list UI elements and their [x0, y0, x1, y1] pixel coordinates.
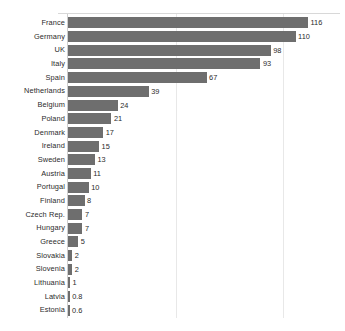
- category-label: Belgium: [38, 98, 65, 112]
- bar[interactable]: [68, 182, 89, 193]
- bar-chart: France116Germany110UK98Italy93Spain67Net…: [0, 0, 345, 331]
- bar-container: 93: [68, 58, 271, 69]
- category-label: Portugal: [37, 180, 65, 194]
- bar-row[interactable]: Czech Rep.7: [0, 208, 345, 222]
- bar[interactable]: [68, 31, 296, 42]
- bar-row[interactable]: Italy93: [0, 57, 345, 71]
- bar-value-label: 110: [296, 31, 310, 42]
- bar-row[interactable]: Belgium24: [0, 98, 345, 112]
- category-label: Austria: [41, 167, 65, 181]
- bar-container: 2: [68, 250, 79, 261]
- bar-row[interactable]: Netherlands39: [0, 84, 345, 98]
- bar-row[interactable]: Poland21: [0, 112, 345, 126]
- bar-row[interactable]: Ireland15: [0, 139, 345, 153]
- bar-value-label: 0.6: [70, 305, 83, 316]
- bar-row[interactable]: Hungary7: [0, 221, 345, 235]
- bar-value-label: 67: [207, 72, 218, 83]
- bar-row[interactable]: Sweden13: [0, 153, 345, 167]
- bar-row[interactable]: Spain67: [0, 71, 345, 85]
- bar-container: 21: [68, 113, 122, 124]
- category-label: Czech Rep.: [25, 208, 65, 222]
- bar[interactable]: [68, 154, 95, 165]
- bar-row[interactable]: UK98: [0, 43, 345, 57]
- bar-value-label: 5: [78, 236, 85, 247]
- bar-container: 7: [68, 209, 89, 220]
- plot-area: France116Germany110UK98Italy93Spain67Net…: [0, 0, 345, 331]
- bar[interactable]: [68, 127, 103, 138]
- bar-row[interactable]: Denmark17: [0, 126, 345, 140]
- bar-row[interactable]: Austria11: [0, 167, 345, 181]
- category-label: Latvia: [45, 290, 65, 304]
- bar-container: 8: [68, 195, 91, 206]
- category-label: Slovenia: [36, 262, 65, 276]
- bar-value-label: 1: [70, 277, 77, 288]
- category-label: Germany: [34, 30, 65, 44]
- bar-value-label: 98: [271, 45, 282, 56]
- bar-value-label: 15: [99, 141, 110, 152]
- bar-container: 5: [68, 236, 85, 247]
- bar-container: 24: [68, 100, 128, 111]
- category-label: Italy: [51, 57, 65, 71]
- category-label: France: [41, 16, 65, 30]
- bar-value-label: 39: [149, 86, 160, 97]
- category-label: Spain: [46, 71, 65, 85]
- bar-value-label: 13: [95, 154, 106, 165]
- bar-row[interactable]: Latvia0.8: [0, 290, 345, 304]
- bar[interactable]: [68, 86, 149, 97]
- bar-row[interactable]: Estonia0.6: [0, 303, 345, 317]
- category-label: Estonia: [40, 303, 65, 317]
- bar-value-label: 7: [82, 223, 89, 234]
- bar-row[interactable]: Finland8: [0, 194, 345, 208]
- bar[interactable]: [68, 100, 118, 111]
- plot-top-border: [58, 13, 340, 14]
- bar[interactable]: [68, 45, 271, 56]
- bar-value-label: 7: [82, 209, 89, 220]
- bar-row[interactable]: Slovenia2: [0, 262, 345, 276]
- bar-container: 2: [68, 264, 79, 275]
- bar-value-label: 0.8: [70, 291, 83, 302]
- bar[interactable]: [68, 141, 99, 152]
- bar-container: 1: [68, 277, 77, 288]
- bar[interactable]: [68, 168, 91, 179]
- bar-value-label: 24: [118, 100, 129, 111]
- bar-rows: France116Germany110UK98Italy93Spain67Net…: [0, 16, 345, 317]
- bar-row[interactable]: Slovakia2: [0, 249, 345, 263]
- bar-container: 10: [68, 182, 99, 193]
- category-label: Finland: [40, 194, 65, 208]
- bar-value-label: 21: [111, 113, 122, 124]
- bar-container: 11: [68, 168, 101, 179]
- bar[interactable]: [68, 17, 308, 28]
- bar-value-label: 2: [72, 264, 79, 275]
- bar-row[interactable]: Greece5: [0, 235, 345, 249]
- category-label: UK: [55, 43, 65, 57]
- category-label: Netherlands: [24, 84, 65, 98]
- bar-container: 98: [68, 45, 281, 56]
- category-label: Ireland: [42, 139, 65, 153]
- category-label: Hungary: [36, 221, 65, 235]
- bar-container: 0.6: [68, 305, 82, 316]
- bar-container: 39: [68, 86, 159, 97]
- bar[interactable]: [68, 209, 82, 220]
- bar[interactable]: [68, 58, 260, 69]
- bar-row[interactable]: Lithuania1: [0, 276, 345, 290]
- bar[interactable]: [68, 113, 111, 124]
- bar[interactable]: [68, 195, 85, 206]
- category-label: Slovakia: [36, 249, 65, 263]
- bar-container: 7: [68, 223, 89, 234]
- bar[interactable]: [68, 223, 82, 234]
- bar-container: 67: [68, 72, 217, 83]
- category-label: Lithuania: [34, 276, 65, 290]
- bar-row[interactable]: Germany110: [0, 30, 345, 44]
- bar[interactable]: [68, 236, 78, 247]
- bar-container: 110: [68, 31, 310, 42]
- bar-row[interactable]: Portugal10: [0, 180, 345, 194]
- bar-value-label: 116: [308, 17, 322, 28]
- bar-container: 15: [68, 141, 110, 152]
- bar-row[interactable]: France116: [0, 16, 345, 30]
- bar-container: 0.8: [68, 291, 82, 302]
- bar-container: 13: [68, 154, 106, 165]
- category-label: Sweden: [38, 153, 65, 167]
- bar[interactable]: [68, 72, 207, 83]
- bar-value-label: 93: [260, 58, 271, 69]
- category-label: Denmark: [34, 126, 65, 140]
